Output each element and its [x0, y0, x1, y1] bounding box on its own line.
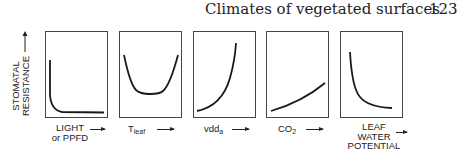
x-label-vdd: vdda	[204, 124, 223, 134]
x-label-leaf-water-potential: LEAF WATER POTENTIAL	[345, 122, 403, 151]
x-arrow-icon	[157, 129, 174, 130]
x-arrow-icon	[306, 129, 323, 130]
x-arrow-icon	[396, 132, 407, 133]
x-label-co2: CO2	[278, 124, 296, 134]
y-axis-label: STOMATAL RESISTANCE	[3, 58, 39, 114]
x-arrow-icon	[232, 129, 249, 130]
panel-vdd	[194, 32, 256, 118]
x-label-leaf-temperature: Tleaf	[128, 124, 145, 134]
panel-light	[46, 32, 108, 118]
panel-leaf-water-potential	[341, 32, 403, 118]
y-axis-arrow-icon	[23, 31, 28, 52]
panel-co2	[267, 32, 329, 118]
stomatal-resistance-figure: STOMATAL RESISTANCE LIGHT or PPFD Tleaf …	[0, 0, 458, 155]
x-label-light-line2: or PPFD	[46, 133, 94, 143]
panel-leaf-temperature	[120, 32, 182, 118]
x-arrow-icon	[90, 129, 105, 130]
x-label-lwp-line3: POTENTIAL	[345, 141, 403, 151]
x-label-light: LIGHT or PPFD	[46, 123, 94, 142]
y-axis-label-line2: RESISTANCE	[21, 56, 31, 116]
